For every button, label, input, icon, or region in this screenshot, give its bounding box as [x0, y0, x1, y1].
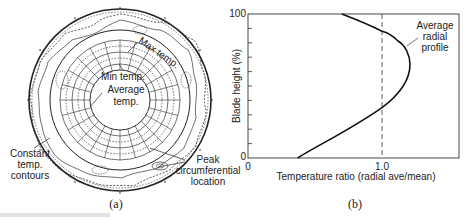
constant-contours-label-line1: Constant	[10, 148, 50, 159]
profile-annotation-line2: radial	[423, 31, 447, 42]
average-temp-label-line1: Average	[107, 84, 145, 95]
peak-location-label-line2: circumferential	[175, 165, 240, 176]
cropped-caption-remnant	[0, 213, 110, 217]
constant-contours-label-line2: temp.	[17, 159, 42, 170]
average-radial-profile-curve	[298, 14, 410, 158]
x-tick-0: 0	[245, 161, 251, 172]
figure-a-caption: (a)	[109, 197, 122, 211]
constant-contours-label-line3: contours	[11, 170, 49, 181]
profile-annotation-line3: profile	[421, 42, 449, 53]
peak-location-label-line3: location	[191, 176, 225, 187]
min-temp-label: Min temp.	[101, 71, 145, 82]
figure-b-caption: (b)	[348, 197, 362, 211]
profile-annotation-line1: Average	[416, 20, 454, 31]
figure-canvas: Max temp. Min temp. Average temp. Consta…	[0, 0, 466, 220]
x-axis-label: Temperature ratio (radial ave/mean)	[277, 171, 436, 182]
y-axis-ticks	[248, 28, 252, 143]
peak-location-label-line1: Peak	[197, 154, 221, 165]
y-axis-label: Blade height (%)	[231, 49, 242, 123]
y-tick-100: 100	[229, 8, 246, 19]
average-temp-label-line2: temp.	[113, 96, 138, 107]
